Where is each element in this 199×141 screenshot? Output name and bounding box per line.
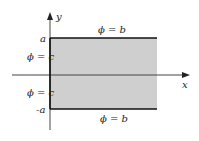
label-top-boundary: ϕ = b bbox=[98, 24, 126, 35]
x-axis-label: x bbox=[182, 79, 188, 90]
label-bottom-boundary: ϕ = b bbox=[100, 113, 128, 124]
y-axis-label: y bbox=[55, 11, 62, 22]
shaded-region bbox=[50, 38, 157, 109]
x-axis-arrow-icon bbox=[182, 72, 190, 78]
label-left-lower: ϕ = c bbox=[27, 87, 55, 98]
tick-a: a bbox=[40, 33, 46, 44]
y-axis-arrow-icon bbox=[47, 12, 53, 20]
label-left-upper: ϕ = c bbox=[27, 51, 55, 62]
tick-neg-a: -a bbox=[36, 104, 45, 115]
boundary-value-diagram: y x a -a ϕ = b ϕ = b ϕ = c ϕ = c bbox=[0, 0, 199, 141]
